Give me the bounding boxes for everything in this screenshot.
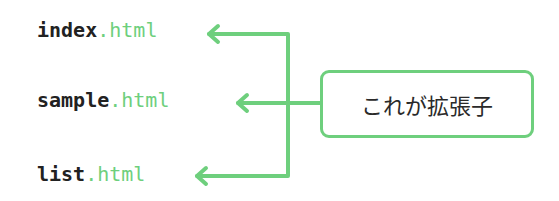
extension-callout: これが拡張子: [320, 70, 534, 138]
callout-label: これが拡張子: [361, 88, 493, 120]
